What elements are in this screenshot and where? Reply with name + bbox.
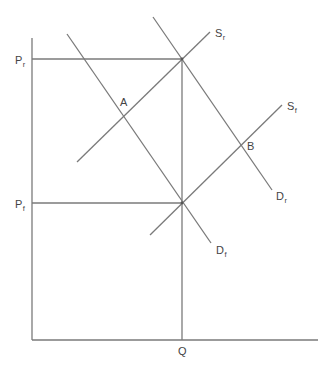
equilibrium-point-lower (181, 202, 184, 205)
demand-curve-dr (153, 17, 272, 190)
label-sr: Sr (215, 27, 226, 42)
label-sf: Sf (287, 100, 298, 115)
label-q: Q (178, 345, 187, 357)
label-pf: Pf (15, 198, 26, 213)
label-point-a: A (120, 96, 128, 108)
demand-curve-df (67, 34, 211, 243)
equilibrium-point-upper (181, 58, 184, 61)
supply-demand-diagram: Pr Pf Q A B Sr Sf Dr Df (0, 0, 332, 369)
label-point-b: B (247, 140, 254, 152)
supply-curve-sf (150, 105, 282, 235)
label-pr: Pr (15, 54, 26, 69)
label-dr: Dr (276, 190, 287, 205)
label-df: Df (216, 244, 227, 259)
supply-curve-sr (77, 32, 210, 162)
